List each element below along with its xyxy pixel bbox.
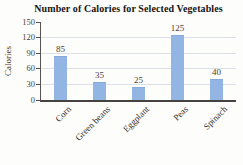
y-tick-mark — [36, 84, 40, 85]
bar-eggplant — [132, 87, 145, 100]
bar-green-beans — [93, 82, 106, 100]
chart-title: Number of Calories for Selected Vegetabl… — [14, 3, 243, 14]
bar-value-label: 25 — [124, 75, 154, 85]
bar-value-label: 35 — [85, 70, 115, 80]
bar-value-label: 85 — [46, 44, 76, 54]
y-tick-mark — [36, 53, 40, 54]
y-tick-label: 30 — [15, 79, 35, 89]
y-tick-label: 60 — [15, 63, 35, 73]
gridline — [41, 37, 236, 38]
bar-value-label: 125 — [163, 23, 193, 33]
y-tick-label: 90 — [15, 48, 35, 58]
bar-chart-figure: Number of Calories for Selected Vegetabl… — [0, 0, 243, 165]
bar-corn — [54, 56, 67, 100]
y-tick-mark — [36, 22, 40, 23]
bar-spinach — [210, 79, 223, 100]
y-tick-mark — [36, 68, 40, 69]
y-axis-label: Calories — [3, 46, 13, 76]
y-tick-label: 120 — [15, 32, 35, 42]
y-tick-label: 150 — [15, 17, 35, 27]
y-tick-mark — [36, 37, 40, 38]
plot-area: 85352512540 — [40, 22, 236, 102]
bar-value-label: 40 — [202, 67, 232, 77]
bar-peas — [171, 35, 184, 100]
y-tick-mark — [36, 100, 40, 101]
y-tick-label: 0 — [15, 95, 35, 105]
